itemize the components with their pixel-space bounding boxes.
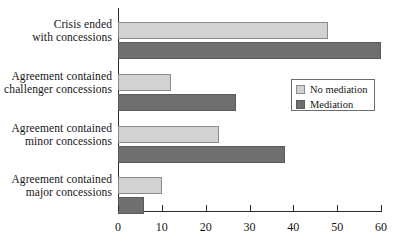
x-tick-label-30: 30	[230, 220, 270, 235]
x-tick-0	[118, 205, 119, 211]
category-label-crisis-ended: Crisis ended with concessions	[0, 18, 112, 43]
bar-mediation-2	[118, 146, 285, 163]
legend-swatch-icon	[296, 85, 305, 94]
x-tick-30	[250, 205, 251, 211]
category-label-major-concessions: Agreement contained major concessions	[0, 173, 112, 198]
category-label-minor-concessions: Agreement contained minor concessions	[0, 122, 112, 147]
category-label-line: with concessions	[0, 31, 112, 44]
bar-no-mediation-0	[118, 22, 328, 39]
x-tick-40	[293, 205, 294, 211]
category-label-line: Crisis ended	[0, 18, 112, 31]
x-tick-label-40: 40	[273, 220, 313, 235]
x-tick-50	[337, 205, 338, 211]
x-tick-20	[206, 205, 207, 211]
category-label-line: Agreement contained	[0, 122, 112, 135]
x-tick-label-60: 60	[361, 220, 396, 235]
category-label-challenger-concessions: Agreement contained challenger concessio…	[0, 70, 112, 95]
bar-mediation-3	[118, 197, 144, 214]
x-axis-line	[118, 211, 382, 212]
bar-mediation-0	[118, 42, 381, 59]
category-label-line: challenger concessions	[0, 83, 112, 96]
bar-no-mediation-2	[118, 126, 219, 143]
category-label-line: major concessions	[0, 186, 112, 199]
legend: No mediation Mediation	[291, 79, 375, 111]
x-tick-label-50: 50	[317, 220, 357, 235]
bar-no-mediation-1	[118, 74, 171, 91]
legend-item-mediation: Mediation	[296, 98, 370, 111]
x-tick-label-0: 0	[98, 220, 138, 235]
x-tick-60	[381, 205, 382, 211]
legend-item-no-mediation: No mediation	[296, 83, 370, 96]
bar-mediation-1	[118, 94, 236, 111]
bar-no-mediation-3	[118, 177, 162, 194]
legend-label: Mediation	[310, 99, 353, 110]
x-tick-label-10: 10	[142, 220, 182, 235]
category-label-line: Agreement contained	[0, 70, 112, 83]
x-tick-10	[162, 205, 163, 211]
category-label-line: minor concessions	[0, 135, 112, 148]
bar-chart: Crisis ended with concessions Agreement …	[0, 0, 396, 242]
category-label-line: Agreement contained	[0, 173, 112, 186]
legend-label: No mediation	[310, 84, 367, 95]
legend-swatch-icon	[296, 100, 305, 109]
x-tick-label-20: 20	[186, 220, 226, 235]
